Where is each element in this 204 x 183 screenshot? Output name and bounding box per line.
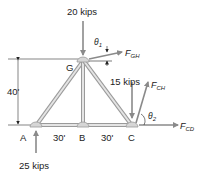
arrow-fgh [89,52,122,59]
theta1-label: θ1 [94,37,102,48]
arrow-fch [136,82,148,123]
load-20kips-label: 20 kips [67,6,97,17]
fch-label: FCH [151,80,166,91]
node-b-label: B [79,132,85,143]
span-ab-label: 30' [53,132,66,143]
span-bc-label: 30' [101,132,114,143]
joint-b [77,122,89,127]
reaction-25kips-label: 25 kips [19,160,49,171]
fcd-label: FCD [180,121,195,132]
load-15kips-label: 15 kips [110,76,140,87]
truss-diagram: 20 kips θ1 FGH G 40' 15 kips FCH θ2 FCD … [0,0,204,183]
joint-g [77,57,89,62]
height-dimension-label: 40' [7,86,20,97]
fgh-label: FGH [125,48,140,59]
node-c-label: C [128,132,135,143]
theta2-label: θ2 [148,111,157,122]
node-g-label: G [66,62,73,73]
truss-members [36,61,132,125]
node-a-label: A [20,132,27,143]
